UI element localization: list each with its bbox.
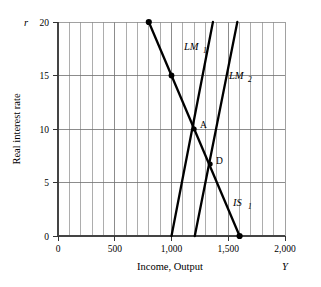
- point-d-label: D: [216, 156, 223, 166]
- lm2-label-text: LM: [228, 70, 245, 81]
- x-tick-label-0: 0: [56, 244, 61, 254]
- y-tick-label-20: 20: [40, 18, 50, 28]
- point-a-label: A: [200, 120, 207, 130]
- is-lm-chart: 20 15 10 5 0 0 500 1,000 1,500 2,000 r R…: [0, 0, 321, 287]
- x-tick-label-2000: 2,000: [274, 244, 296, 254]
- x-axis-title: Income, Output: [137, 261, 203, 272]
- is1-marker-1600-0: [237, 233, 243, 239]
- x-tick-label-1000: 1,000: [161, 244, 183, 254]
- y-axis-title: Real interest rate: [11, 93, 22, 164]
- y-tick-label-15: 15: [40, 71, 50, 81]
- y-tick-label-10: 10: [40, 125, 50, 135]
- is1-marker-800-20: [146, 19, 152, 25]
- y-tick-label-0: 0: [44, 232, 49, 242]
- point-a-marker: [192, 127, 197, 132]
- lm1-label-subscript: 1: [203, 46, 207, 55]
- x-tick-label-1500: 1,500: [218, 244, 240, 254]
- is1-marker-1000-15: [169, 73, 175, 79]
- x-tick-label-500: 500: [108, 244, 123, 254]
- lm1-label-text: LM: [183, 41, 200, 52]
- is-lm-figure: 20 15 10 5 0 0 500 1,000 1,500 2,000 r R…: [0, 0, 321, 287]
- point-d-marker: [208, 162, 213, 167]
- is1-label-subscript: 1: [248, 202, 252, 211]
- lm2-label-subscript: 2: [248, 75, 252, 84]
- y-tick-label-5: 5: [44, 178, 49, 188]
- is1-label-text: IS: [232, 197, 242, 208]
